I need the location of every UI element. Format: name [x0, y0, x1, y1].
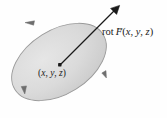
field-letter: F	[116, 26, 122, 37]
vector-field-symbol: F→	[116, 27, 122, 38]
curl-close-paren: )	[150, 26, 154, 37]
point-coordinate-label: (x, y, z)	[38, 69, 66, 79]
arrowhead-upper-left	[25, 21, 35, 25]
curl-vector-label: rot F→(x, y, z)	[102, 27, 153, 38]
diagram-canvas	[0, 0, 167, 118]
arrowhead-right	[102, 71, 107, 78]
curl-diagram-figure: rot F→(x, y, z) (x, y, z)	[0, 0, 167, 118]
point-close-paren: )	[63, 68, 66, 78]
curl-operator-text: rot	[102, 26, 114, 37]
point-marker	[58, 63, 61, 66]
